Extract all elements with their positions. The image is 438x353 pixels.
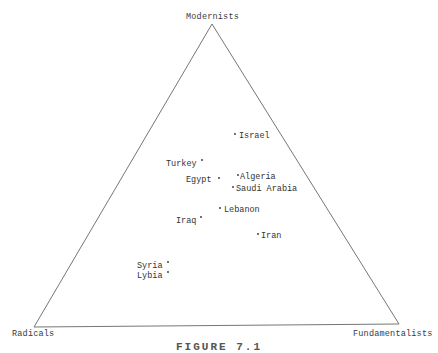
data-point-dot [219,207,221,209]
country-label: Syria [137,261,163,271]
country-point-turkey: Turkey [166,159,203,169]
data-point-dot [257,233,259,235]
data-point-dot [167,271,169,273]
country-point-lebanon: Lebanon [219,205,260,215]
data-point-dot [218,177,220,179]
country-label: Saudi Arabia [236,184,297,194]
vertex-label-radicals: Radicals [12,329,54,339]
data-point-dot [237,174,239,176]
country-label: Iran [261,231,281,241]
country-point-algeria: Algeria [237,172,276,182]
country-label: Algeria [240,172,276,182]
country-label: Israel [239,131,270,141]
figure-caption: FIGURE 7.1 [0,341,438,353]
country-point-saudi-arabia: Saudi Arabia [232,184,297,194]
data-point-dot [200,216,202,218]
country-point-israel: Israel [234,131,270,141]
country-point-iraq: Iraq [176,216,202,226]
country-label: Egypt [186,175,212,185]
country-label: Lybia [137,271,163,281]
country-point-syria: Syria [137,261,169,271]
country-point-iran: Iran [257,231,281,241]
country-point-lybia: Lybia [137,271,169,281]
country-label: Lebanon [224,205,260,215]
vertex-label-modernists: Modernists [186,12,239,22]
country-label: Iraq [176,216,196,226]
country-label: Turkey [166,159,197,169]
country-point-egypt: Egypt [186,175,220,185]
data-point-dot [167,261,169,263]
vertex-label-fundamentalists: Fundamentalists [353,329,433,339]
data-point-dot [234,133,236,135]
data-point-dot [232,186,234,188]
data-point-dot [201,159,203,161]
